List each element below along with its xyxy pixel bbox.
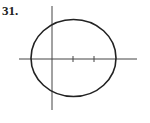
ellipse-diagram: [0, 0, 150, 123]
